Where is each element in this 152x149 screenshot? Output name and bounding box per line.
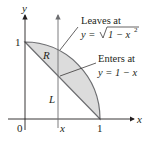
enters-at-label: Enters at [98,53,135,64]
enters-eq: y = 1 − x [97,67,138,78]
x-position-label: x [59,122,65,134]
line-L-label: L [48,93,55,105]
leaves-eq-exponent: 2 [134,26,138,34]
region-R [25,42,100,119]
y-axis-label: y [21,2,27,14]
leader-leaves [60,27,78,50]
diagram-canvas: y x 0 1 1 x R L Leaves at y = 1 − x 2 En… [0,0,152,149]
region-R-label: R [42,49,50,61]
leaves-eq-radicand: 1 − x [108,29,131,40]
x-tick-label-1: 1 [97,122,103,134]
origin-label: 0 [17,122,23,134]
leaves-at-label: Leaves at [81,15,121,26]
leaves-eq-prefix: y = [80,29,95,40]
y-tick-label-1: 1 [15,36,21,48]
x-axis-label: x [136,113,142,125]
